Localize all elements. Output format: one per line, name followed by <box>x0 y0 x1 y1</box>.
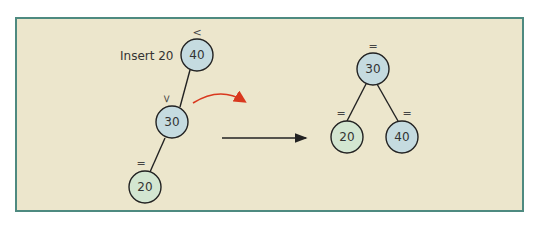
node-value: 20 <box>137 180 152 194</box>
rotation-arrow-icon <box>193 94 244 103</box>
edge-30-40 <box>377 84 398 121</box>
balance-mark: = <box>136 157 145 170</box>
edge-30-20 <box>347 84 366 121</box>
balance-mark: < <box>160 94 173 103</box>
balance-mark: = <box>368 40 377 53</box>
avl-rotation-diagram: Insert 20 < 40 < 30 = 20 = 30 = 20 = 40 <box>0 0 544 227</box>
balance-mark: = <box>402 107 411 120</box>
insert-caption: Insert 20 <box>120 49 174 63</box>
node-value: 20 <box>339 130 354 144</box>
node-value: 30 <box>365 62 380 76</box>
balance-mark: < <box>192 26 201 39</box>
node-value: 30 <box>164 115 179 129</box>
balance-mark: = <box>336 107 345 120</box>
node-value: 40 <box>189 48 204 62</box>
edge-30-20 <box>150 138 165 172</box>
edge-40-30 <box>180 70 190 107</box>
node-value: 40 <box>394 130 409 144</box>
